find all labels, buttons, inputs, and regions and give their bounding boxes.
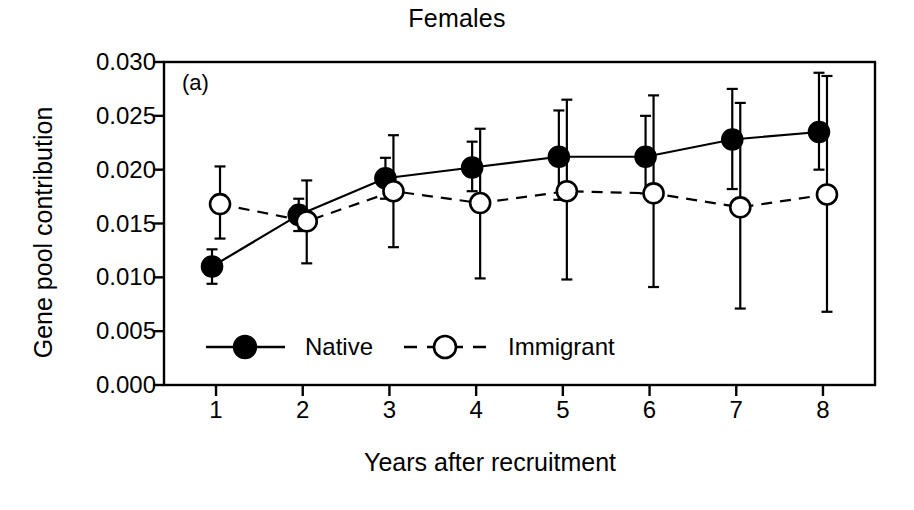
data-point-immigrant: [557, 181, 577, 201]
data-point-immigrant: [210, 194, 230, 214]
data-point-immigrant: [297, 211, 317, 231]
legend-marker-immigrant: [434, 336, 456, 358]
legend-label-immigrant: Immigrant: [508, 333, 615, 361]
data-point-immigrant: [817, 184, 837, 204]
legend-marker-native: [234, 336, 256, 358]
data-point-immigrant: [730, 197, 750, 217]
data-point-immigrant: [470, 193, 490, 213]
data-point-immigrant: [383, 181, 403, 201]
legend-label-native: Native: [305, 333, 373, 361]
figure-panel: Females Gene pool contribution Years aft…: [0, 0, 914, 510]
plot-area: [0, 0, 914, 510]
data-point-immigrant: [644, 183, 664, 203]
data-point-native: [202, 257, 222, 277]
